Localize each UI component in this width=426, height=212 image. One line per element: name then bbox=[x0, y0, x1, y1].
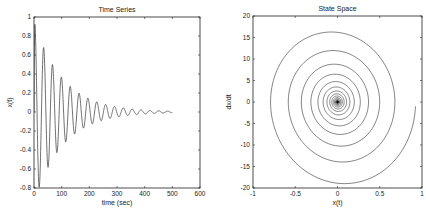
y-tick-label: 20 bbox=[243, 12, 251, 19]
x-tick-label: 400 bbox=[139, 190, 150, 197]
y-tick-label: 15 bbox=[243, 34, 251, 41]
x-tick-label: 600 bbox=[195, 190, 206, 197]
x-tick-label: 1 bbox=[420, 190, 424, 197]
y-tick-label: -5 bbox=[244, 120, 250, 127]
figure: 0100200300400500600-0.8-0.6-0.4-0.200.20… bbox=[0, 0, 426, 212]
x-tick-label: 100 bbox=[56, 190, 67, 197]
y-tick-label: 1 bbox=[27, 13, 31, 20]
y-tick-label: -20 bbox=[241, 184, 251, 191]
x-tick-label: 0 bbox=[32, 190, 36, 197]
chart-title: State Space bbox=[318, 5, 356, 13]
x-tick-label: 500 bbox=[167, 190, 178, 197]
x-tick-label: -0.5 bbox=[290, 190, 302, 197]
y-tick-label: 10 bbox=[243, 55, 251, 62]
y-tick-label: 0.8 bbox=[22, 32, 31, 39]
chart-title: Time Series bbox=[98, 6, 136, 13]
y-tick-label: -0.6 bbox=[20, 165, 32, 172]
y-tick-label: -15 bbox=[241, 163, 251, 170]
x-axis-label: time (sec) bbox=[102, 199, 133, 207]
x-axis-label: x(t) bbox=[332, 199, 342, 207]
y-axis-label: dx/dt bbox=[225, 94, 232, 109]
y-tick-label: 0 bbox=[246, 98, 250, 105]
y-tick-label: 0 bbox=[27, 108, 31, 115]
x-tick-label: 200 bbox=[84, 190, 95, 197]
y-tick-label: 0.6 bbox=[22, 51, 31, 58]
x-tick-label: 0.5 bbox=[375, 190, 384, 197]
state-space-plot: -1-0.500.51-20-15-10-505101520State Spac… bbox=[225, 5, 424, 207]
y-tick-label: -0.2 bbox=[20, 127, 32, 134]
y-axis-label: x(t) bbox=[6, 97, 14, 107]
plot-area bbox=[34, 17, 200, 188]
x-tick-label: 300 bbox=[112, 190, 123, 197]
time-series-plot: 0100200300400500600-0.8-0.6-0.4-0.200.20… bbox=[6, 6, 206, 207]
x-tick-label: 0 bbox=[336, 190, 340, 197]
x-tick-label: -1 bbox=[250, 190, 256, 197]
y-tick-label: -0.8 bbox=[20, 184, 32, 191]
y-tick-label: 0.2 bbox=[22, 89, 31, 96]
y-tick-label: -0.4 bbox=[20, 146, 32, 153]
y-tick-label: 0.4 bbox=[22, 70, 31, 77]
y-tick-label: -10 bbox=[241, 141, 251, 148]
y-tick-label: 5 bbox=[246, 77, 250, 84]
